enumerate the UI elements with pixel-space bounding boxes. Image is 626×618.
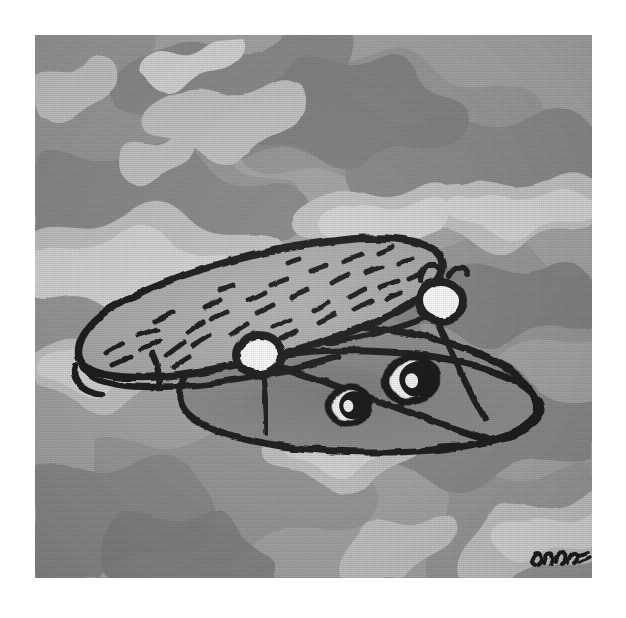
button-right bbox=[419, 281, 463, 321]
camouflage-illustration bbox=[35, 35, 592, 578]
eye-left bbox=[326, 385, 371, 425]
image-canvas: Camouflage Cap with Eyes ink and gouache… bbox=[0, 0, 626, 618]
artwork-plate bbox=[35, 35, 592, 578]
artwork-medium: ink and gouache illustration on camoufla… bbox=[0, 0, 1, 1]
artwork-title: Camouflage Cap with Eyes bbox=[0, 0, 1, 1]
button-left bbox=[236, 336, 282, 374]
signature-text: Dopa bbox=[0, 0, 1, 1]
